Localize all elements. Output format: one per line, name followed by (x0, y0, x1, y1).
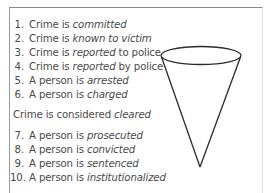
funnel-icon (0, 0, 265, 193)
